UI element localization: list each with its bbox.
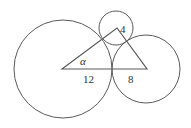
top-side-label: 4: [120, 23, 126, 35]
tangent-circles-diagram: α 12 8 4: [0, 0, 191, 128]
left-base-label: 12: [83, 73, 94, 85]
right-base-label: 8: [128, 73, 134, 85]
center-triangle: [62, 28, 147, 69]
angle-label: α: [80, 55, 86, 67]
